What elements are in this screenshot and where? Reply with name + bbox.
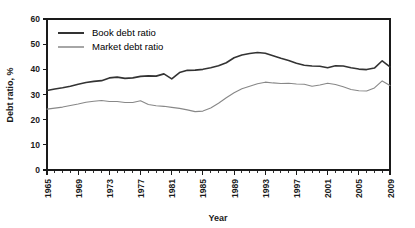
- x-tick-label: 1993: [261, 179, 271, 198]
- y-tick-label: 20: [31, 115, 41, 125]
- chart-legend: Book debt ratioMarket debt ratio: [58, 27, 163, 52]
- legend-label-1: Market debt ratio: [92, 41, 163, 52]
- x-tick-label: 1973: [105, 179, 115, 198]
- legend-label-0: Book debt ratio: [92, 27, 156, 38]
- y-tick-label: 40: [31, 64, 41, 74]
- x-tick-label: 2001: [323, 179, 333, 198]
- data-series-group: [47, 52, 390, 111]
- x-tick-label: 1989: [230, 179, 240, 198]
- x-tick-label: 1977: [136, 179, 146, 198]
- x-axis-ticks: 1965196919731977198119851989199319972001…: [43, 170, 396, 198]
- x-tick-label: 1981: [167, 179, 177, 198]
- y-tick-label: 50: [31, 39, 41, 49]
- x-tick-label: 1969: [74, 179, 84, 198]
- x-tick-label: 2009: [386, 179, 396, 198]
- x-tick-label: 2005: [354, 179, 364, 198]
- x-tick-label: 1985: [198, 179, 208, 198]
- chart-figure: 0102030405060 19651969197319771981198519…: [0, 0, 415, 228]
- x-tick-label: 1997: [292, 179, 302, 198]
- y-tick-label: 30: [31, 90, 41, 100]
- line-chart: 0102030405060 19651969197319771981198519…: [0, 0, 415, 228]
- y-axis-title: Debt ratio, %: [5, 67, 15, 122]
- y-tick-label: 60: [31, 14, 41, 24]
- series-line-1: [47, 81, 390, 112]
- y-tick-label: 0: [35, 165, 40, 175]
- x-axis-title: Year: [208, 213, 228, 223]
- x-tick-label: 1965: [43, 179, 53, 198]
- y-axis-ticks: 0102030405060: [31, 14, 47, 175]
- y-tick-label: 10: [31, 140, 41, 150]
